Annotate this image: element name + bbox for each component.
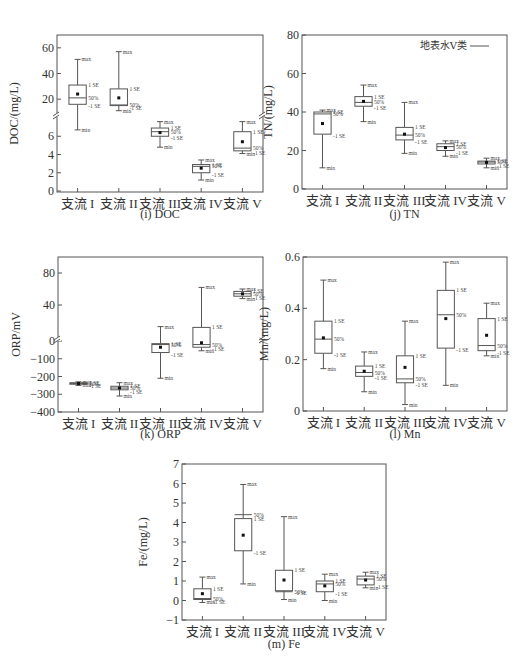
mean-marker [159, 346, 162, 349]
y-tick-label: 0 [49, 334, 55, 348]
chart-mn: 00.20.40.6Mn/(mg/L)支流 I支流 II支流 III支流 IV支… [257, 250, 510, 441]
se-plus-label: 1 SE [88, 82, 99, 88]
max-label: max [368, 349, 378, 355]
min-label: min [368, 119, 377, 125]
mean-marker [118, 387, 121, 390]
median-label: 50% [456, 312, 467, 318]
se-plus-label: 1 SE [295, 567, 306, 573]
se-minus-label: -1 SE [129, 105, 142, 111]
mean-marker [159, 131, 162, 134]
box-3: maxmin1 SE50%-1 SE [396, 99, 428, 156]
y-tick-label: 4 [48, 148, 54, 162]
box-4: maxmin1 SE50%-1 SE [193, 157, 225, 183]
box-1: maxmin1 SE50%-1 SE [194, 574, 226, 605]
x-tick-label: 支流 V [346, 624, 385, 639]
y-axis-label: TN/(mg/L) [261, 85, 275, 138]
x-tick-label: 支流 I [307, 415, 341, 430]
se-minus-label: -1 SE [497, 163, 510, 169]
box-4: maxmin1 SE50%-1 SE [437, 138, 469, 159]
se-minus-label: -1 SE [375, 375, 388, 381]
min-label: min [409, 150, 418, 156]
min-label: min [82, 127, 91, 133]
min-label: min [247, 581, 256, 587]
median-label: 50% [334, 336, 345, 342]
y-tick-label: 0 [173, 594, 179, 608]
x-tick-label: 支流 I [306, 193, 340, 208]
y-tick-label: 20 [287, 144, 299, 158]
se-plus-label: 1 SE [497, 316, 508, 322]
y-tick-label: 40 [287, 105, 299, 119]
median-label: 50% [212, 163, 223, 169]
mean-marker [77, 382, 80, 385]
x-tick-label: 支流 IV [424, 193, 468, 208]
y-tick-label: 20 [42, 92, 54, 106]
max-label: max [246, 119, 256, 125]
y-tick-label: 60 [287, 67, 299, 81]
se-plus-label: 1 SE [213, 586, 224, 592]
y-tick-label: 60 [42, 41, 54, 55]
se-plus-label: 1 SE [334, 318, 345, 324]
se-minus-label: -1 SE [212, 346, 225, 352]
max-label: max [409, 99, 419, 105]
x-tick-label: 支流 IV [303, 624, 347, 639]
min-label: min [450, 382, 459, 388]
mean-marker [283, 579, 286, 582]
min-label: min [409, 402, 418, 408]
mean-marker [76, 93, 79, 96]
chart-title: (i) DOC [140, 207, 180, 221]
se-minus-label: -1 SE [253, 295, 266, 301]
y-tick-label: 80 [43, 266, 55, 280]
box-3: maxmin1 SE50%-1 SE [275, 514, 307, 603]
y-tick-label: 40 [42, 67, 54, 81]
se-minus-label: -1 SE [212, 172, 225, 178]
mean-marker [444, 317, 447, 320]
box-4: maxmin1 SE50%-1 SE [193, 284, 225, 353]
se-minus-label: -1 SE [254, 550, 267, 556]
se-plus-label: 1 SE [375, 363, 386, 369]
se-minus-label: -1 SE [213, 599, 226, 605]
median-label: 50% [376, 576, 387, 582]
se-minus-label: -1 SE [416, 382, 429, 388]
mean-marker [241, 140, 244, 143]
y-tick-label: 5 [173, 496, 179, 510]
y-tick-label: 80 [287, 28, 299, 42]
se-minus-label: -1 SE [334, 352, 347, 358]
box-3: maxmin1 SE50%-1 SE [151, 119, 183, 151]
y-tick-label: −1 [166, 613, 179, 627]
max-label: max [327, 277, 337, 283]
y-tick-label: −100 [30, 352, 55, 366]
max-label: max [409, 318, 419, 324]
y-tick-label: 0.6 [285, 250, 300, 264]
y-tick-label: 0.4 [285, 301, 300, 315]
mean-marker [363, 370, 366, 373]
se-minus-label: -1 SE [376, 584, 389, 590]
y-tick-label: 2 [173, 555, 179, 569]
chart-title: (l) Mn [390, 427, 421, 441]
y-tick-label: −400 [30, 405, 55, 419]
y-axis-label: Fe/(mg/L) [136, 517, 150, 566]
x-tick-label: 支流 V [467, 415, 506, 430]
se-minus-label: -1 SE [171, 352, 184, 358]
box-4: maxmin1 SE50%-1 SE [437, 259, 469, 388]
se-minus-label: -1 SE [295, 590, 308, 596]
mean-marker [200, 341, 203, 344]
y-axis-label: Mn/(mg/L) [257, 307, 271, 361]
min-label: min [164, 144, 173, 150]
min-label: min [329, 598, 338, 604]
mean-marker [241, 292, 244, 295]
box-1: maxmin1 SE50%-1 SE [315, 277, 347, 372]
se-minus-label: -1 SE [415, 139, 428, 145]
se-minus-label: -1 SE [333, 133, 346, 139]
box-1: maxmin1 SE50%-1 SE [69, 56, 101, 132]
median-label: 50% [497, 343, 508, 349]
x-tick-label: 支流 V [467, 193, 506, 208]
mean-marker [444, 146, 447, 149]
se-plus-label: 1 SE [129, 86, 140, 92]
median-label: 50% [88, 95, 99, 101]
se-minus-label: -1 SE [497, 350, 510, 356]
min-label: min [327, 165, 336, 171]
max-label: max [450, 259, 460, 265]
x-tick-label: 支流 II [345, 415, 383, 430]
y-tick-label: 2 [48, 166, 54, 180]
se-minus-label: -1 SE [88, 103, 101, 109]
